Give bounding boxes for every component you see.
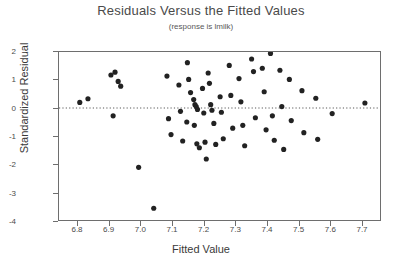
x-tick-label: 7.0	[125, 225, 155, 234]
x-tick-label: 6.8	[62, 225, 92, 234]
data-point	[112, 70, 117, 75]
data-point	[111, 113, 116, 118]
data-point	[263, 127, 268, 132]
data-point	[209, 108, 214, 113]
chart-subtitle: (response is lmilk)	[0, 22, 402, 31]
data-point	[188, 90, 193, 95]
data-point	[191, 97, 196, 102]
data-point	[136, 165, 141, 170]
x-tick-label: 7.3	[220, 225, 250, 234]
data-point	[192, 123, 197, 128]
data-point	[204, 156, 209, 161]
data-point	[362, 100, 367, 105]
data-point	[207, 81, 212, 86]
data-point	[330, 111, 335, 116]
data-point	[313, 96, 318, 101]
data-point	[236, 76, 241, 81]
data-point	[197, 145, 202, 150]
data-point	[118, 84, 123, 89]
data-point	[221, 136, 226, 141]
data-point	[184, 119, 189, 124]
data-point	[262, 89, 267, 94]
data-point	[176, 82, 181, 87]
y-tick-label: 0	[0, 103, 16, 112]
data-point	[253, 115, 258, 120]
data-point	[213, 142, 218, 147]
y-tick-label: 2	[0, 47, 16, 56]
data-point	[301, 130, 306, 135]
data-point	[242, 143, 247, 148]
x-tick-label: 7.4	[252, 225, 282, 234]
data-point	[249, 56, 254, 61]
data-point	[277, 68, 282, 73]
data-point	[228, 93, 233, 98]
y-axis-title: Standardized Residual	[18, 8, 30, 188]
data-point	[166, 116, 171, 121]
data-point	[218, 94, 223, 99]
x-tick-label: 7.5	[284, 225, 314, 234]
data-point	[178, 109, 183, 114]
x-tick-label: 6.9	[94, 225, 124, 234]
data-point	[272, 138, 277, 143]
data-point	[151, 206, 156, 211]
data-point	[201, 110, 206, 115]
scatter-canvas	[59, 52, 380, 220]
data-point	[116, 79, 121, 84]
data-point	[219, 110, 224, 115]
data-point	[287, 77, 292, 82]
data-point	[299, 88, 304, 93]
data-point	[208, 102, 213, 107]
data-point	[180, 138, 185, 143]
data-point	[240, 123, 245, 128]
plot-area	[58, 51, 381, 221]
data-point	[227, 63, 232, 68]
data-point	[185, 60, 190, 65]
x-tick-label: 7.2	[189, 225, 219, 234]
data-point	[202, 140, 207, 145]
y-tick-label: -1	[0, 132, 16, 141]
data-point	[164, 74, 169, 79]
data-point	[206, 70, 211, 75]
data-point	[211, 121, 216, 126]
y-tick-label: 1	[0, 75, 16, 84]
residual-plot-figure: Residuals Versus the Fitted Values (resp…	[0, 0, 402, 263]
y-tick-label: -4	[0, 217, 16, 226]
data-point	[77, 100, 82, 105]
data-point	[186, 77, 191, 82]
data-point	[281, 147, 286, 152]
x-tick-label: 7.7	[347, 225, 377, 234]
data-point	[168, 132, 173, 137]
y-tick-label: -3	[0, 188, 16, 197]
y-tick-label: -2	[0, 160, 16, 169]
chart-title: Residuals Versus the Fitted Values	[0, 3, 402, 18]
data-point	[315, 137, 320, 142]
data-point	[195, 107, 200, 112]
data-point	[238, 99, 243, 104]
x-tick-label: 7.1	[157, 225, 187, 234]
x-tick-label: 7.6	[315, 225, 345, 234]
data-point	[289, 118, 294, 123]
data-point	[279, 104, 284, 109]
data-point	[260, 66, 265, 71]
data-point	[270, 113, 275, 118]
x-axis-title: Fitted Value	[0, 243, 402, 255]
data-point	[200, 86, 205, 91]
data-point	[230, 126, 235, 131]
data-point	[268, 52, 273, 56]
data-point	[85, 96, 90, 101]
data-point	[251, 69, 256, 74]
y-tick-mark	[53, 221, 58, 222]
